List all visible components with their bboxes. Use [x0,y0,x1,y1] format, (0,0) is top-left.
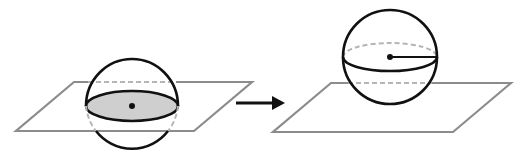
right-figure [273,10,511,132]
left-figure [16,59,252,149]
arrow-head-icon [272,96,285,110]
transition-arrow [236,96,285,110]
right-center-dot [387,54,393,60]
diagram-canvas [0,0,528,161]
left-sphere-lower-arc [96,131,168,149]
left-center-dot [129,103,135,109]
